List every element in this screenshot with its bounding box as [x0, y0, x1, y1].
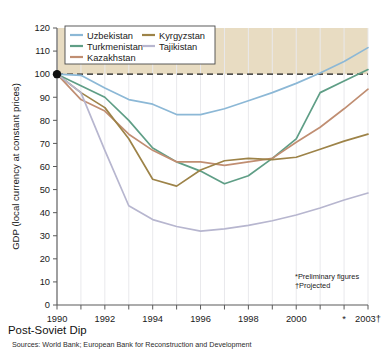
y-axis-tick-label: 40: [40, 208, 50, 218]
x-axis-tick-label: 1990: [47, 314, 68, 324]
chart-container: 0102030405060708090100110120199019921994…: [0, 0, 382, 352]
x-axis-tick-label: 1998: [238, 314, 259, 324]
legend-label-turkmenistan: Turkmenistan: [87, 42, 143, 52]
footnote-annotation: †Projected: [295, 281, 330, 290]
legend-label-tajikistan: Tajikistan: [159, 42, 197, 52]
x-axis-tick-label: 2000: [286, 314, 307, 324]
legend-label-uzbekistan: Uzbekistan: [87, 31, 133, 41]
y-axis-title: GDP (local currency at constant prices): [10, 83, 21, 250]
y-axis-tick-label: 10: [40, 277, 50, 287]
x-axis-tick-label: 1994: [142, 314, 163, 324]
chart-title: Post-Soviet Dip: [8, 324, 87, 336]
y-axis-tick-label: 30: [40, 231, 50, 241]
y-axis-tick-label: 90: [40, 93, 50, 103]
footnote-annotation: *Preliminary figures: [295, 272, 359, 281]
y-axis-tick-label: 0: [45, 300, 50, 310]
x-axis-tick-label: *: [342, 314, 346, 324]
y-axis-tick-label: 100: [34, 69, 50, 79]
y-axis-tick-label: 120: [34, 23, 50, 33]
post-soviet-dip-line-chart: 0102030405060708090100110120199019921994…: [0, 0, 382, 352]
origin-marker-dot: [53, 70, 61, 78]
x-axis-tick-label: 2003†: [355, 314, 381, 324]
legend-label-kazakhstan: Kazakhstan: [87, 53, 136, 63]
y-axis-tick-label: 80: [40, 116, 50, 126]
x-axis-tick-label: 1996: [190, 314, 211, 324]
y-axis-tick-label: 50: [40, 185, 50, 195]
y-axis-tick-label: 70: [40, 139, 50, 149]
legend-label-kyrgyzstan: Kyrgyzstan: [159, 31, 205, 41]
x-axis-tick-label: 1992: [95, 314, 116, 324]
y-axis-tick-label: 110: [35, 46, 50, 56]
sources-caption: Sources: World Bank; European Bank for R…: [12, 340, 252, 349]
y-axis-tick-label: 20: [40, 254, 50, 264]
y-axis-tick-label: 60: [40, 162, 50, 172]
